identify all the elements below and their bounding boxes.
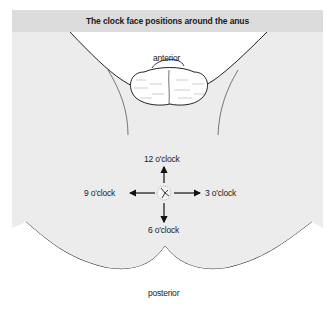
label-3-oclock: 3 o'clock: [205, 188, 236, 198]
right-buttock-curve: [218, 70, 238, 135]
label-posterior: posterior: [148, 288, 179, 298]
figure-frame: The clock face positions around the anus…: [12, 10, 323, 310]
label-anterior: anterior: [153, 53, 180, 63]
label-6-oclock: 6 o'clock: [148, 225, 179, 235]
anus-center-icon: [157, 186, 171, 200]
figure-title: The clock face positions around the anus: [12, 10, 323, 32]
label-12-oclock: 12 o'clock: [144, 154, 180, 164]
label-9-oclock: 9 o'clock: [84, 188, 115, 198]
